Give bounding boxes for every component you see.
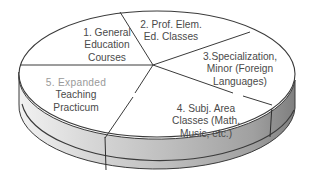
- label-line: Ed. Classes: [140, 31, 202, 43]
- label-line: 3.Specialization,: [203, 51, 277, 63]
- label-line: Practicum: [46, 102, 107, 114]
- label-line: Teaching: [46, 89, 107, 101]
- slice-label-subject-area: 4. Subj. Area Classes (Math, Music, etc.…: [172, 103, 240, 140]
- label-line: 5. Expanded: [46, 77, 107, 89]
- label-line: Languages): [203, 76, 277, 88]
- label-line: Courses: [83, 52, 131, 64]
- label-line: Minor (Foreign: [203, 63, 277, 75]
- slice-label-general-education: 1. General Education Courses: [83, 27, 131, 64]
- label-line: Education: [83, 39, 131, 51]
- label-line: Music, etc.): [172, 128, 240, 140]
- label-line: 2. Prof. Elem.: [140, 19, 202, 31]
- label-line: 4. Subj. Area: [172, 103, 240, 115]
- slice-label-teaching-practicum: 5. Expanded Teaching Practicum: [46, 77, 107, 114]
- label-line: 1. General: [83, 27, 131, 39]
- label-line: Classes (Math,: [172, 115, 240, 127]
- slice-label-prof-elem-ed: 2. Prof. Elem. Ed. Classes: [140, 19, 202, 44]
- slice-label-specialization: 3.Specialization, Minor (Foreign Languag…: [203, 51, 277, 88]
